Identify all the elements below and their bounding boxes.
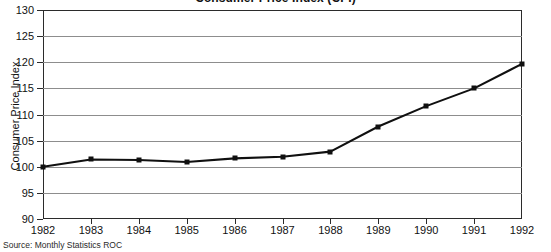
x-axis-tick-label: 1982 — [31, 224, 55, 236]
x-axis-tick-label: 1983 — [79, 224, 103, 236]
x-axis-tick-label: 1984 — [127, 224, 151, 236]
data-point-marker — [280, 154, 285, 159]
x-axis-tick-label: 1992 — [510, 224, 534, 236]
x-axis-tick-label: 1986 — [222, 224, 246, 236]
data-point-marker — [472, 86, 477, 91]
y-axis-tick-label: 115 — [16, 82, 34, 94]
y-axis-tick-label: 120 — [16, 56, 34, 68]
data-point-marker — [424, 104, 429, 109]
data-point-marker — [88, 157, 93, 162]
data-point-marker — [232, 156, 237, 161]
chart-title: Consumer Price Index (CPI) — [0, 0, 551, 5]
x-axis-tick-label: 1989 — [366, 224, 390, 236]
data-point-marker — [41, 164, 46, 169]
y-axis-tick-label: 110 — [16, 109, 34, 121]
x-axis-tick-label: 1985 — [174, 224, 198, 236]
y-axis-tick-label: 95 — [22, 187, 34, 199]
series-line — [43, 10, 522, 219]
y-axis-tick-label: 130 — [16, 4, 34, 16]
y-axis-tick-label: 125 — [16, 30, 34, 42]
data-point-marker — [520, 61, 525, 66]
data-point-marker — [136, 157, 141, 162]
data-point-marker — [328, 149, 333, 154]
cpi-line-chart: Consumer Price Index (CPI) Consumer Pric… — [0, 0, 551, 252]
plot-area: 9095100105110115120125130 19821983198419… — [43, 10, 522, 219]
y-axis-tick — [37, 219, 43, 220]
y-axis-tick-label: 100 — [16, 161, 34, 173]
x-axis-tick-label: 1991 — [462, 224, 486, 236]
data-point-marker — [376, 124, 381, 129]
x-axis-tick-label: 1990 — [414, 224, 438, 236]
x-axis-tick-label: 1987 — [270, 224, 294, 236]
data-point-marker — [184, 160, 189, 165]
x-axis-tick-label: 1988 — [318, 224, 342, 236]
source-note: Source: Monthly Statistics ROC — [3, 240, 122, 250]
y-axis-tick-label: 105 — [16, 135, 34, 147]
